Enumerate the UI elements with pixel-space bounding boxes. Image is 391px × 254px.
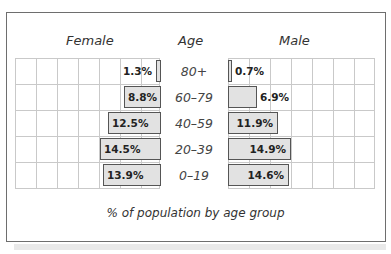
grid-hline: [228, 84, 375, 85]
grid-vline: [78, 58, 79, 188]
grid-vline: [99, 58, 100, 188]
grid-hline: [15, 162, 160, 163]
grid-hline: [15, 110, 160, 111]
grid-vline: [15, 58, 16, 188]
male-header: Male: [279, 33, 310, 48]
grid-hline: [15, 136, 160, 137]
male-bar: [228, 60, 232, 82]
grid-hline: [228, 58, 375, 59]
male-value-label: 6.9%: [260, 86, 289, 108]
grid-vline: [354, 58, 355, 188]
female-value-label: 12.5%: [112, 112, 148, 134]
female-value-label: 1.3%: [123, 60, 152, 82]
male-value-label: 11.9%: [237, 112, 273, 134]
age-group-label: 80+: [160, 59, 228, 85]
age-group-label: 60–79: [160, 85, 228, 111]
grid-vline: [36, 58, 37, 188]
grid-hline: [228, 136, 375, 137]
grid-hline: [15, 188, 160, 189]
grid-vline: [333, 58, 334, 188]
female-value-label: 14.5%: [104, 138, 140, 160]
female-header: Female: [66, 33, 114, 48]
age-header: Age: [178, 33, 203, 48]
frame-shadow: [14, 244, 386, 250]
grid-hline: [15, 58, 160, 59]
age-group-label: 0–19: [160, 163, 228, 189]
age-group-label: 20–39: [160, 137, 228, 163]
grid-hline: [228, 188, 375, 189]
grid-vline: [374, 58, 375, 188]
female-value-label: 8.8%: [128, 86, 157, 108]
age-group-label: 40–59: [160, 111, 228, 137]
grid-hline: [15, 84, 160, 85]
male-value-label: 14.6%: [248, 164, 284, 186]
male-bar: [228, 86, 257, 108]
grid-vline: [291, 58, 292, 188]
grid-hline: [228, 110, 375, 111]
chart-caption: % of population by age group: [0, 206, 391, 220]
male-value-label: 14.9%: [250, 138, 286, 160]
grid-hline: [228, 162, 375, 163]
male-value-label: 0.7%: [235, 60, 264, 82]
grid-vline: [312, 58, 313, 188]
grid-vline: [57, 58, 58, 188]
female-value-label: 13.9%: [107, 164, 143, 186]
